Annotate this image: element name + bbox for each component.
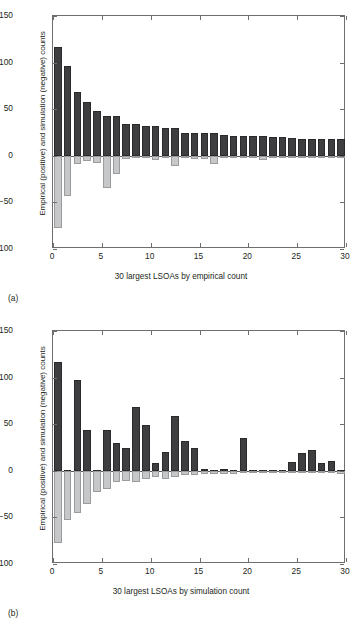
bar-positive xyxy=(181,441,189,471)
bar-negative xyxy=(132,471,140,482)
figure-panel-a: Empirical (positive) and simulation (neg… xyxy=(0,0,362,314)
bar-positive xyxy=(103,116,111,156)
y-tick-mark xyxy=(53,109,57,110)
bar-negative xyxy=(54,156,62,229)
bar-positive xyxy=(201,133,209,155)
x-tick-mark xyxy=(151,331,152,335)
bar-negative xyxy=(220,156,228,158)
x-tick-label: 0 xyxy=(37,567,67,575)
y-tick-mark xyxy=(340,16,344,17)
x-tick-label: 5 xyxy=(86,252,116,260)
y-tick-mark xyxy=(340,249,344,250)
plot-area-b xyxy=(52,330,345,563)
bar-positive xyxy=(240,438,248,471)
bar-negative xyxy=(308,156,316,158)
bar-positive xyxy=(74,380,82,470)
y-tick-mark xyxy=(340,471,344,472)
y-tick-label: 0 xyxy=(0,151,13,159)
x-tick-mark xyxy=(53,16,54,20)
y-tick-label: 100 xyxy=(0,58,13,66)
y-tick-mark xyxy=(340,63,344,64)
bar-negative xyxy=(269,471,277,473)
x-tick-label: 25 xyxy=(281,252,311,260)
bar-negative xyxy=(142,471,150,479)
bar-positive xyxy=(269,137,277,156)
bar-negative xyxy=(210,156,218,164)
x-tick-label: 15 xyxy=(184,252,214,260)
bar-positive xyxy=(83,430,91,471)
figure-panel-b: Empirical (positive) and simulation (neg… xyxy=(0,315,362,629)
x-tick-mark xyxy=(151,558,152,562)
bar-positive xyxy=(132,124,140,156)
y-tick-label: −50 xyxy=(0,197,13,205)
bar-positive xyxy=(171,128,179,156)
bar-negative xyxy=(142,156,150,158)
y-tick-label: −100 xyxy=(0,559,13,567)
bar-negative xyxy=(122,156,130,159)
y-tick-label: −50 xyxy=(0,512,13,520)
y-tick-mark xyxy=(340,202,344,203)
y-tick-label: 50 xyxy=(0,419,13,427)
x-tick-label: 30 xyxy=(330,567,360,575)
y-tick-label: 0 xyxy=(0,466,13,474)
y-tick-mark xyxy=(53,249,57,250)
x-tick-mark xyxy=(297,243,298,247)
x-tick-mark xyxy=(346,558,347,562)
bar-negative xyxy=(162,471,170,479)
bar-negative xyxy=(328,471,336,473)
bar-positive xyxy=(191,133,199,156)
bar-negative xyxy=(240,156,248,158)
bar-positive xyxy=(328,139,336,156)
bar-negative xyxy=(191,471,199,475)
bar-negative xyxy=(181,471,189,476)
y-axis-label-b: Empirical (positive) and simulation (neg… xyxy=(38,321,47,557)
bar-positive xyxy=(298,139,306,156)
bar-negative xyxy=(298,156,306,158)
bar-positive xyxy=(113,116,121,156)
bar-positive xyxy=(220,135,228,156)
y-tick-label: −100 xyxy=(0,244,13,252)
bar-positive xyxy=(142,126,150,156)
x-tick-mark xyxy=(53,558,54,562)
bar-negative xyxy=(201,471,209,474)
bar-negative xyxy=(64,156,72,196)
bar-negative xyxy=(171,156,179,166)
bar-negative xyxy=(279,156,287,158)
panel-tag-a: (a) xyxy=(8,293,18,303)
x-axis-label-b: 30 largest LSOAs by simulation count xyxy=(0,587,362,596)
bar-negative xyxy=(298,471,306,473)
bar-negative xyxy=(93,471,101,492)
bar-negative xyxy=(181,156,189,158)
bar-negative xyxy=(288,471,296,473)
bar-positive xyxy=(93,111,101,156)
bar-positive xyxy=(122,124,130,156)
x-tick-label: 5 xyxy=(86,567,116,575)
bar-positive xyxy=(210,133,218,155)
bar-negative xyxy=(279,471,287,473)
y-tick-mark xyxy=(53,63,57,64)
x-tick-label: 10 xyxy=(135,252,165,260)
bar-positive xyxy=(337,139,345,156)
bar-negative xyxy=(191,156,199,159)
x-tick-mark xyxy=(53,331,54,335)
bar-positive xyxy=(103,430,111,471)
x-tick-mark xyxy=(151,16,152,20)
y-tick-mark xyxy=(53,471,57,472)
bar-positive xyxy=(259,136,267,156)
bar-negative xyxy=(249,156,257,158)
bar-positive xyxy=(142,425,150,471)
y-tick-mark xyxy=(53,424,57,425)
bar-positive xyxy=(318,463,326,470)
bars-container-b xyxy=(53,331,344,562)
bar-positive xyxy=(64,66,72,155)
bar-negative xyxy=(54,471,62,544)
bar-positive xyxy=(152,126,160,156)
bar-negative xyxy=(74,156,82,164)
y-axis-label-a: Empirical (positive) and simulation (neg… xyxy=(38,6,47,242)
x-tick-mark xyxy=(200,243,201,247)
y-tick-mark xyxy=(340,331,344,332)
bar-positive xyxy=(152,463,160,470)
y-tick-mark xyxy=(53,378,57,379)
bar-negative xyxy=(308,471,316,473)
y-tick-label: 150 xyxy=(0,11,13,19)
